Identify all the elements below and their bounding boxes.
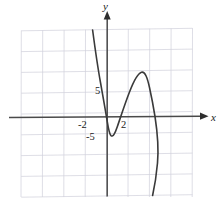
tick-label-y-negative-five: -5 [86,131,95,142]
tick-label-y-five: 5 [95,85,100,96]
tick-label-x-two: 2 [121,119,126,130]
y-axis-label: y [102,0,108,12]
x-axis-label: x [210,111,216,123]
y-axis-arrow [104,11,111,20]
x-axis-line [9,116,201,117]
tick-label-x-negative-two: -2 [78,119,87,130]
x-axis-arrow [200,113,209,120]
coordinate-plane: -2 2 5 -5 x y [0,0,222,211]
graph-figure: -2 2 5 -5 x y [0,0,222,211]
